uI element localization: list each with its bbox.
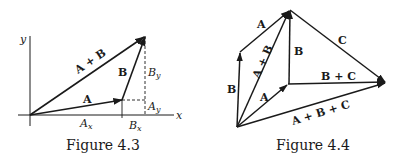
vector-b-left <box>237 53 240 127</box>
label-b: B <box>118 66 127 79</box>
caption-figure-4-3: Figure 4.3 <box>66 137 140 153</box>
label-b-center: B <box>294 45 303 58</box>
vector-b-center <box>289 11 290 84</box>
label-ay: Ay <box>147 100 161 114</box>
vector-figures: y x A B A + B Ax Bx Ay By Figure 4.3 B A… <box>0 0 403 162</box>
caption-figure-4-4: Figure 4.4 <box>276 137 350 153</box>
label-c: C <box>338 34 347 47</box>
label-b-left: B <box>227 83 236 96</box>
figure-4-4: B A A + B B A C B + C A + B + C Figure 4… <box>227 10 385 153</box>
y-axis-label: y <box>19 33 27 46</box>
label-a-plus-b: A + B <box>72 46 109 77</box>
x-axis-label: x <box>176 109 183 122</box>
label-a-plus-b: A + B <box>249 43 275 81</box>
label-ax: Ax <box>79 117 93 131</box>
label-a-upper: A <box>256 18 266 31</box>
vector-a <box>30 100 122 115</box>
label-by: By <box>147 66 161 80</box>
label-b-plus-c: B + C <box>321 70 356 83</box>
figure-4-3: y x A B A + B Ax Bx Ay By Figure 4.3 <box>18 33 183 153</box>
label-a: A <box>82 93 92 106</box>
label-a-inner: A <box>259 91 269 104</box>
label-bx: Bx <box>128 119 142 133</box>
